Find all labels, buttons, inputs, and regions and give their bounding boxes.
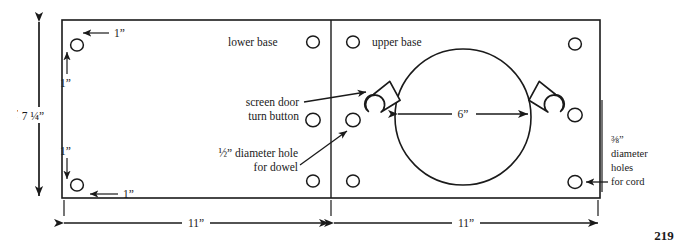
hole-lower-base-middle (306, 113, 320, 127)
inset-top-vertical-label: 1” (60, 77, 71, 89)
left-panel-width-label-top: 11” (188, 217, 204, 229)
hole-upper-base-bottom-left (347, 175, 360, 187)
hole-lower-base-top (307, 36, 320, 48)
screen-door-label: screen door (246, 96, 299, 108)
cord-holes-label-line2: diameter (611, 148, 648, 159)
hole-upper-base-top-left (347, 36, 360, 48)
turn-button-leader (304, 92, 366, 102)
hole-dowel-left (346, 113, 360, 127)
right-panel-width-label-top: 11” (458, 217, 474, 229)
plan-diagram-svg: 7 ¼” 1” 1” 1” 1” lower base upper base s… (0, 0, 688, 249)
hole-lower-base-bottom (307, 175, 320, 187)
height-dimension-label-top: 7 ¼” (22, 110, 44, 122)
lower-base-label: lower base (228, 36, 278, 48)
turn-button-left (361, 79, 404, 121)
page-number: 219 (654, 228, 674, 243)
cord-holes-label-line3: holes (611, 162, 633, 173)
technical-drawing-figure: 7 ¼” 1” 1” 1” 1” lower base upper base s… (0, 0, 688, 249)
hole-bottom-left-corner (71, 179, 84, 191)
inset-bottom-horizontal-label: 1” (123, 188, 134, 200)
upper-base-label: upper base (372, 36, 422, 49)
circle-diameter-label-top: 6” (458, 108, 469, 120)
turn-button-label: turn button (248, 110, 299, 122)
cord-holes-label-line1: ⅜” (611, 134, 624, 145)
cord-holes-label-line4: for cord (611, 176, 645, 187)
hole-upper-base-top-right (569, 38, 582, 50)
dowel-hole-label-line1: ½” diameter hole (218, 147, 298, 159)
hole-cord-bottom-right (568, 176, 582, 189)
hole-dowel-right (568, 108, 582, 122)
hole-top-left-corner (71, 39, 84, 51)
dowel-hole-label-line2: for dowel (254, 161, 298, 173)
inset-bottom-vertical-label: 1” (60, 145, 71, 157)
inset-top-horizontal-label: 1” (114, 27, 125, 39)
dowel-hole-leader (300, 131, 347, 165)
